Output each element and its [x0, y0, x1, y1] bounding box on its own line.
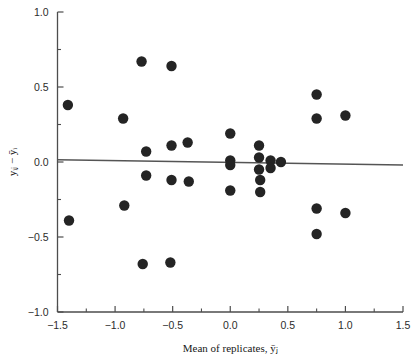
data-point: [254, 140, 264, 150]
x-axis-label: Mean of replicates, ȳⱼ: [183, 342, 278, 354]
x-tick-label: 0.0: [223, 319, 238, 331]
data-point: [311, 113, 321, 123]
data-point: [311, 203, 321, 213]
x-tick-label: −1.0: [105, 319, 126, 331]
data-point: [141, 170, 151, 180]
data-point: [311, 89, 321, 99]
data-point: [166, 61, 176, 71]
x-tick-label: −1.5: [47, 319, 68, 331]
data-point: [165, 257, 175, 267]
data-point: [255, 175, 265, 185]
x-tick-label: 0.5: [281, 319, 296, 331]
scatter-plot-figure: −1.5−1.0−0.50.00.51.01.5−1.0−0.50.00.51.…: [0, 0, 413, 361]
data-point: [255, 187, 265, 197]
data-point: [254, 152, 264, 162]
data-point: [119, 200, 129, 210]
data-point: [340, 208, 350, 218]
y-tick-label: 0.5: [34, 81, 49, 93]
x-tick-label: 1.0: [338, 319, 353, 331]
data-point: [311, 229, 321, 239]
data-point: [182, 137, 192, 147]
data-point: [166, 140, 176, 150]
data-point: [118, 113, 128, 123]
data-point: [141, 146, 151, 156]
data-point: [136, 56, 146, 66]
y-tick-label: −1.0: [28, 306, 49, 318]
y-tick-label: 0.0: [34, 156, 49, 168]
data-point: [64, 215, 74, 225]
data-point: [265, 163, 275, 173]
data-point: [340, 110, 350, 120]
data-point: [166, 175, 176, 185]
data-point: [138, 259, 148, 269]
y-axis-label: yᵢⱼ − ȳᵢ: [6, 148, 18, 177]
data-point: [63, 100, 73, 110]
y-tick-label: 1.0: [34, 6, 49, 18]
x-tick-label: 1.5: [396, 319, 411, 331]
data-point: [225, 128, 235, 138]
data-point: [276, 157, 286, 167]
data-point: [254, 164, 264, 174]
x-tick-label: −0.5: [162, 319, 183, 331]
y-tick-label: −0.5: [28, 231, 49, 243]
data-point: [184, 176, 194, 186]
data-point: [225, 160, 235, 170]
data-point: [225, 185, 235, 195]
